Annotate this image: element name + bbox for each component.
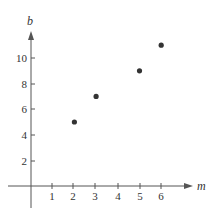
x-axis-label: m (197, 179, 206, 193)
x-tick-label: 2 (70, 190, 76, 202)
x-axis-arrow-icon (184, 183, 193, 189)
data-point (94, 94, 99, 99)
data-point (72, 119, 77, 124)
y-axis-label: b (27, 14, 33, 28)
y-tick-label: 8 (22, 78, 28, 90)
y-tick-label: 10 (16, 52, 28, 64)
x-tick-label: 6 (158, 190, 164, 202)
data-point (137, 68, 142, 73)
y-tick-label: 4 (22, 129, 28, 141)
x-tick-label: 4 (115, 190, 121, 202)
scatter-chart: m b 1 2 3 4 5 6 2 4 6 8 10 (0, 0, 209, 213)
x-tick-label: 5 (137, 190, 143, 202)
y-tick-label: 6 (22, 103, 28, 115)
x-tick-label: 1 (49, 190, 55, 202)
y-ticks: 2 4 6 8 10 (16, 52, 35, 167)
y-axis-arrow-icon (28, 31, 34, 40)
x-tick-label: 3 (92, 190, 98, 202)
data-points (72, 43, 164, 125)
y-tick-label: 2 (22, 155, 28, 167)
data-point (159, 43, 164, 48)
